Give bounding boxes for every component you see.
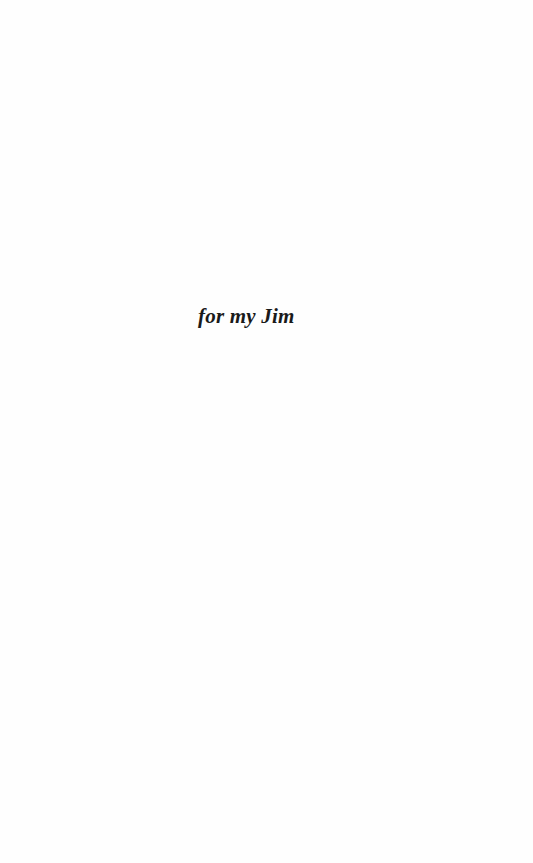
- dedication-text: for my Jim: [198, 303, 295, 329]
- dedication-page: for my Jim: [0, 0, 533, 863]
